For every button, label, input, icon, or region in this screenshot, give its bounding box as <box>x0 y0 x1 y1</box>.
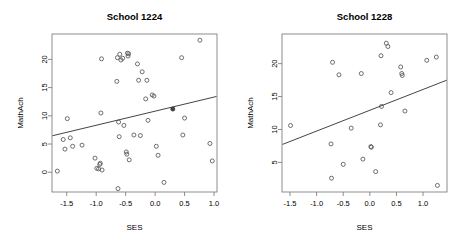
x-tick-label: 1.0 <box>418 199 428 208</box>
plot-box <box>52 34 217 192</box>
data-point <box>132 133 136 137</box>
panel-school-1228: School 1228-1.5-1.0-0.50.00.51.05101520S… <box>230 0 460 250</box>
data-point <box>379 54 383 58</box>
data-point <box>63 147 67 151</box>
data-point <box>349 126 353 130</box>
data-point <box>359 72 363 76</box>
data-point <box>115 79 119 83</box>
x-tick-label: 0.5 <box>179 199 189 208</box>
data-point <box>386 45 390 49</box>
data-point <box>378 123 382 127</box>
data-point <box>162 180 166 184</box>
data-point <box>180 56 184 60</box>
x-tick-label: -1.0 <box>310 199 323 208</box>
mean-point <box>171 107 175 111</box>
y-tick-label: 5 <box>270 160 279 164</box>
data-point <box>118 52 122 56</box>
data-layer <box>52 38 217 190</box>
data-point <box>181 133 185 137</box>
data-point <box>389 91 393 95</box>
scatterplot-figure: School 1224-1.5-1.0-0.50.00.51.005101520… <box>0 0 460 250</box>
x-tick-label: -0.5 <box>119 199 132 208</box>
data-point <box>361 157 365 161</box>
data-point <box>116 187 120 191</box>
data-point <box>140 70 144 74</box>
data-point <box>434 55 438 59</box>
data-point <box>331 60 335 64</box>
y-tick-label: 20 <box>270 59 279 67</box>
data-point <box>435 183 439 187</box>
data-point <box>65 117 69 121</box>
data-point <box>61 138 65 142</box>
panel-title: School 1224 <box>107 11 163 22</box>
data-point <box>341 162 345 166</box>
x-axis: -1.5-1.0-0.50.00.51.0 <box>60 192 219 208</box>
data-point <box>68 136 72 140</box>
data-point <box>330 176 334 180</box>
data-point <box>93 156 97 160</box>
data-point <box>154 144 158 148</box>
data-point <box>71 144 75 148</box>
data-point <box>145 78 149 82</box>
y-tick-label: 0 <box>40 170 49 174</box>
data-point <box>144 97 148 101</box>
data-point <box>156 153 160 157</box>
x-tick-label: -0.5 <box>337 199 350 208</box>
data-point <box>198 38 202 42</box>
data-layer <box>282 41 447 187</box>
y-tick-label: 15 <box>40 83 49 91</box>
y-tick-label: 15 <box>270 92 279 100</box>
y-tick-label: 5 <box>40 142 49 146</box>
data-point <box>99 111 103 115</box>
x-tick-label: 0.0 <box>150 199 160 208</box>
data-point <box>122 123 126 127</box>
x-tick-label: -1.5 <box>284 199 297 208</box>
x-tick-label: 1.0 <box>209 199 219 208</box>
x-tick-label: -1.0 <box>90 199 103 208</box>
data-point <box>329 142 333 146</box>
y-tick-label: 10 <box>40 112 49 120</box>
data-point <box>289 124 293 128</box>
x-tick-label: 0.5 <box>391 199 401 208</box>
plot-box <box>282 34 447 192</box>
data-point <box>135 62 139 66</box>
x-tick-label: 0.0 <box>365 199 375 208</box>
x-axis-title: SES <box>126 223 142 232</box>
y-axis: 05101520 <box>40 55 52 174</box>
data-point <box>208 141 212 145</box>
data-point <box>137 78 141 82</box>
x-axis-title: SES <box>356 223 372 232</box>
y-axis-title: MathAch <box>246 97 255 129</box>
y-tick-label: 10 <box>270 125 279 133</box>
panel-title: School 1228 <box>337 11 392 22</box>
y-axis-title: MathAch <box>16 97 25 129</box>
x-axis: -1.5-1.0-0.50.00.51.0 <box>284 192 429 208</box>
data-point <box>117 135 121 139</box>
data-point <box>80 143 84 147</box>
data-point <box>425 58 429 62</box>
data-point <box>183 116 187 120</box>
data-point <box>127 158 131 162</box>
data-point <box>55 169 59 173</box>
regression-line <box>282 80 447 145</box>
y-tick-label: 20 <box>40 55 49 63</box>
data-point <box>210 159 214 163</box>
data-point <box>403 109 407 113</box>
data-point <box>374 170 378 174</box>
regression-line <box>52 96 217 136</box>
panel-school-1224: School 1224-1.5-1.0-0.50.00.51.005101520… <box>0 0 230 250</box>
data-point <box>337 73 341 77</box>
y-axis: 5101520 <box>270 59 282 164</box>
data-point <box>100 57 104 61</box>
data-point <box>138 134 142 138</box>
data-point <box>146 118 150 122</box>
data-point <box>399 65 403 69</box>
x-tick-label: -1.5 <box>60 199 73 208</box>
